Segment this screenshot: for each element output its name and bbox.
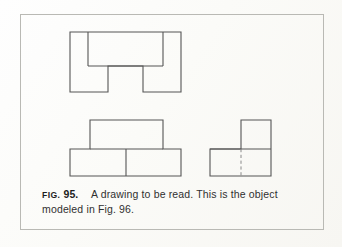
- caption-fig-number: 95.: [63, 188, 78, 200]
- caption-line-1: A drawing to be read. This is the: [91, 188, 246, 200]
- figure-caption: FIG. 95. A drawing to be read. This is t…: [42, 188, 290, 216]
- caption-fig-label: FIG.: [42, 190, 60, 200]
- figure-page: FIG. 95. A drawing to be read. This is t…: [0, 0, 342, 247]
